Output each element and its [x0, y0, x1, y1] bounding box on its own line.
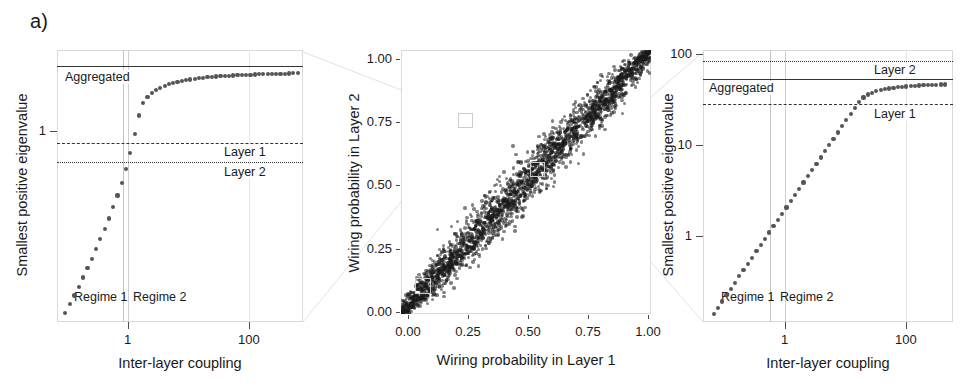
data-point [480, 212, 483, 215]
data-point [141, 101, 145, 105]
data-point [712, 312, 716, 316]
data-point [477, 264, 480, 267]
data-point [498, 175, 501, 178]
data-point [98, 237, 102, 241]
data-point [447, 270, 450, 273]
data-point [524, 194, 527, 197]
data-point [569, 160, 572, 163]
middle-panel-scatter [401, 50, 651, 314]
data-point [831, 137, 835, 141]
data-point [646, 62, 649, 65]
data-point [571, 142, 574, 145]
data-point [601, 119, 604, 122]
middle-xtick-label-025: 0.25 [450, 324, 486, 339]
data-point [444, 282, 447, 285]
data-point [849, 112, 853, 116]
middle-highlight-box-left-anchor [458, 113, 473, 128]
middle-xaxis-title: Wiring probability in Layer 1 [396, 352, 656, 368]
data-point [484, 196, 487, 199]
data-point [424, 272, 427, 275]
data-point [583, 134, 586, 137]
data-point [296, 71, 300, 75]
data-point [629, 74, 632, 77]
data-point [90, 257, 94, 261]
data-point [513, 191, 516, 194]
data-point [471, 228, 474, 231]
data-point [776, 218, 780, 222]
data-point [806, 174, 810, 178]
data-point [442, 248, 445, 251]
data-point [442, 268, 445, 271]
data-point [418, 299, 421, 302]
left-yaxis-title: Smallest positive eigenvalue [14, 50, 30, 320]
data-point [614, 93, 617, 96]
middle-xtick-label-050: 0.50 [510, 324, 546, 339]
data-point [508, 212, 511, 215]
data-point [797, 187, 801, 191]
data-point [593, 103, 596, 106]
data-point [581, 97, 584, 100]
data-point [137, 113, 141, 117]
data-point [549, 152, 552, 155]
middle-ytick-mark-050 [396, 185, 400, 186]
data-point [509, 215, 512, 218]
data-point [580, 110, 583, 113]
data-point [502, 170, 505, 173]
data-point [81, 275, 85, 279]
data-point [827, 143, 831, 147]
left-xaxis-title: Inter-layer coupling [60, 355, 300, 371]
data-point [623, 102, 626, 105]
data-point [553, 173, 556, 176]
data-point [510, 208, 513, 211]
data-point [631, 83, 634, 86]
data-point [467, 256, 470, 259]
data-point [546, 138, 549, 141]
data-point [480, 237, 483, 240]
data-point [573, 126, 576, 129]
data-point [472, 207, 475, 210]
data-point [582, 152, 585, 155]
data-point [606, 75, 609, 78]
middle-highlight-box-right-anchor [530, 162, 545, 177]
data-point [641, 67, 644, 70]
data-point [410, 291, 413, 294]
data-point [526, 179, 529, 182]
data-point [587, 109, 590, 112]
data-point [874, 89, 878, 93]
data-point [491, 196, 494, 199]
middle-xtick-mark-025 [468, 315, 469, 319]
data-point [574, 117, 577, 120]
data-point [750, 256, 754, 260]
data-point [621, 77, 624, 80]
data-point [456, 220, 459, 223]
data-point [484, 200, 487, 203]
data-point [464, 264, 467, 267]
data-point [506, 204, 509, 207]
data-point [621, 112, 624, 115]
data-point [635, 68, 638, 71]
data-point [560, 150, 563, 153]
data-point [444, 279, 447, 282]
middle-xtick-mark-050 [528, 315, 529, 319]
data-point [545, 146, 548, 149]
data-point [451, 245, 454, 248]
data-point [563, 115, 566, 118]
data-point [575, 148, 578, 151]
left-xtick-label-100: 100 [238, 332, 260, 347]
data-point [921, 83, 925, 87]
data-point [411, 305, 414, 308]
data-point [541, 148, 544, 151]
middle-yaxis-title: Wiring probability in Layer 2 [346, 48, 362, 318]
data-point [455, 259, 458, 262]
data-point [107, 216, 111, 220]
data-point [746, 262, 750, 266]
data-point [572, 120, 575, 123]
data-point [561, 161, 564, 164]
data-point [497, 198, 500, 201]
data-point [434, 293, 437, 296]
data-point [513, 229, 516, 232]
data-point [532, 183, 535, 186]
data-point [613, 68, 616, 71]
data-point [85, 266, 89, 270]
data-point [646, 69, 649, 72]
